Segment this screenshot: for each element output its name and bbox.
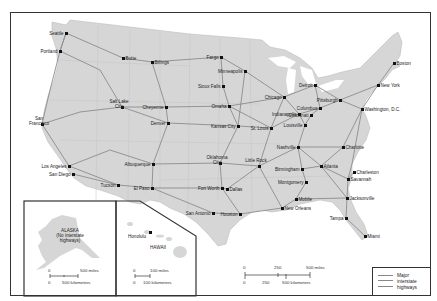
city-dot-san-diego xyxy=(72,173,75,176)
alaska-note: (No interstate highways) xyxy=(52,233,88,243)
city-label-minneapolis: Minneapolis xyxy=(218,69,243,74)
city-dot-albuquerque xyxy=(152,163,155,166)
city-dot-fort-worth xyxy=(221,187,224,190)
city-dot-sioux-falls xyxy=(222,85,225,88)
legend: Major interstate highways xyxy=(372,267,431,296)
city-dot-st-louis xyxy=(270,127,273,130)
hawaii-scale-miles-end: 100 miles xyxy=(150,268,169,273)
city-dot-omaha xyxy=(228,105,231,108)
main-scale-miles-zero: 0 xyxy=(243,265,245,270)
city-label-fort-worth: Fort Worth xyxy=(198,186,220,191)
city-label-cincinnati: Cincinnati xyxy=(288,113,308,118)
hawaii-scale-km-end: 100 kilometers xyxy=(143,280,172,285)
city-label-cheyenne: Cheyenne xyxy=(143,105,164,110)
main-scale-miles-mid: 250 xyxy=(274,265,281,270)
city-label-charlotte: Charlotte xyxy=(346,145,365,150)
city-dot-washington-d-c- xyxy=(361,108,364,111)
city-label-st-louis: St. Louis xyxy=(251,126,269,131)
city-dot-louisville xyxy=(304,124,307,127)
alaska-title: ALASKA (No interstate highways) xyxy=(52,228,88,244)
city-label-sioux-falls: Sioux Falls xyxy=(198,84,220,89)
city-label-houston: Houston xyxy=(220,212,237,217)
city-dot-boston xyxy=(393,62,396,65)
city-dot-el-paso xyxy=(151,187,154,190)
city-label-denver: Denver xyxy=(151,121,166,126)
city-label-charleston: Charleston xyxy=(357,170,379,175)
city-label-louisville: Louisville xyxy=(284,123,303,128)
city-label-chicago: Chicago xyxy=(265,95,282,100)
city-dot-honolulu xyxy=(149,231,152,234)
city-dot-cheyenne xyxy=(165,106,168,109)
city-dot-san-antonio xyxy=(212,212,215,215)
alaska-scale-miles-end: 500 miles xyxy=(80,268,99,273)
city-label-new-orleans: New Orleans xyxy=(285,206,312,211)
city-dot-portland xyxy=(59,50,62,53)
city-dot-atlanta xyxy=(320,165,323,168)
city-dot-charlotte xyxy=(342,146,345,149)
city-dot-jacksonville xyxy=(346,197,349,200)
city-dot-tampa xyxy=(345,217,348,220)
legend-label: Major interstate highways xyxy=(397,273,430,291)
main-scale-km-zero: 0 xyxy=(243,280,245,285)
city-dot-denver xyxy=(167,122,170,125)
city-label-mobile: Mobile xyxy=(299,197,313,202)
city-label-savannah: Savannah xyxy=(351,177,372,182)
city-label-new-york: New York xyxy=(381,83,400,88)
city-label-montgomery: Montgomery xyxy=(278,180,304,185)
city-dot-tucson xyxy=(117,184,120,187)
city-label-jacksonville: Jacksonville xyxy=(350,196,375,201)
city-dot-billings xyxy=(151,61,154,64)
city-label-tampa: Tampa xyxy=(330,216,344,221)
city-dot-chicago xyxy=(283,96,286,99)
city-dot-seattle xyxy=(65,32,68,35)
city-label-birmingham: Birmingham xyxy=(275,167,300,172)
hawaii-title: HAWAII xyxy=(150,245,166,250)
city-dot-columbus xyxy=(319,107,322,110)
hawaii-scale-km-zero: 0 xyxy=(133,280,135,285)
city-label-san-diego: San Diego xyxy=(49,172,70,177)
city-dot-los-angeles xyxy=(68,165,71,168)
hawaii-scale-miles-zero: 0 xyxy=(133,268,135,273)
alaska-scale-km-zero: 0 xyxy=(48,280,50,285)
alaska-scale-km-end: 500 kilometers xyxy=(62,280,91,285)
city-dot-fargo xyxy=(220,56,223,59)
city-dot-birmingham xyxy=(301,168,304,171)
city-dot-nashville xyxy=(297,146,300,149)
city-label-little-rock: Little Rock xyxy=(245,158,267,163)
city-dot-dallas xyxy=(226,188,229,191)
city-dot-charleston xyxy=(353,171,356,174)
city-label-pittsburgh: Pittsburgh xyxy=(317,98,338,103)
city-label-tucson: Tucson xyxy=(101,183,116,188)
city-label-butte: Butte xyxy=(126,56,137,61)
us-map-svg xyxy=(0,0,437,301)
city-label-salt-lake-city: Salt Lake City xyxy=(108,99,130,109)
city-dot-savannah xyxy=(347,178,350,181)
city-label-nashville: Nashville xyxy=(277,145,296,150)
city-label-billings: Billings xyxy=(155,60,170,65)
main-scale-km-end: 500 kilometers xyxy=(282,280,311,285)
city-label-kansas-city: Kansas City xyxy=(211,124,236,129)
city-dot-houston xyxy=(239,213,242,216)
hawaii-islands xyxy=(127,222,187,258)
city-label-albuquerque: Albuquerque xyxy=(124,162,150,167)
city-label-los-angeles: Los Angeles xyxy=(41,164,66,169)
city-label-san-francisco: San Francisco xyxy=(28,116,50,126)
city-label-portland: Portland xyxy=(40,49,57,54)
city-label-el-paso: El Paso xyxy=(134,186,150,191)
city-label-washington-d-c-: Washington, D.C. xyxy=(365,107,401,112)
scale-bars xyxy=(50,272,310,279)
city-dot-montgomery xyxy=(305,181,308,184)
highway-legend-swatch xyxy=(378,275,393,287)
city-dot-pittsburgh xyxy=(339,99,342,102)
city-dot-cincinnati xyxy=(310,114,313,117)
city-dot-kansas-city xyxy=(237,125,240,128)
city-label-oklahoma-city: Oklahoma City xyxy=(206,155,228,165)
alaska-scale-miles-zero: 0 xyxy=(48,268,50,273)
city-label-detroit: Detroit xyxy=(299,83,313,88)
city-label-fargo: Fargo xyxy=(206,55,218,60)
main-scale-miles-end: 500 miles xyxy=(306,265,325,270)
city-label-boston: Boston xyxy=(397,61,411,66)
city-dot-butte xyxy=(122,57,125,60)
city-dot-miami xyxy=(364,235,367,238)
city-label-seattle: Seattle xyxy=(49,31,63,36)
